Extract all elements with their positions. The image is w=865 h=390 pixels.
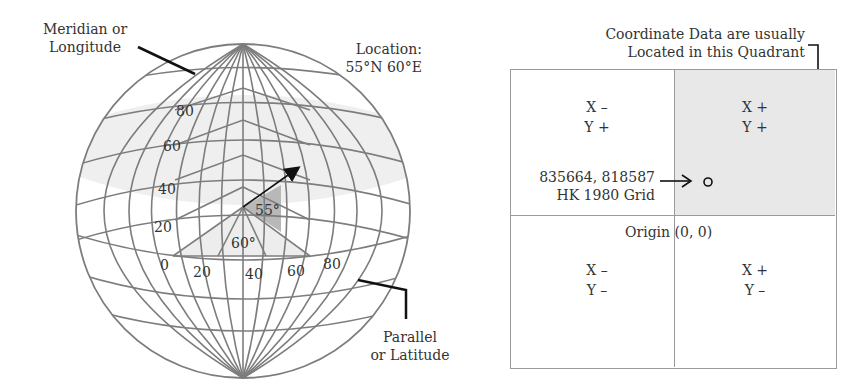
lon-tick-40: 40: [245, 265, 263, 283]
top-right-x-sign: X +: [725, 97, 785, 117]
lon-tick-20: 20: [193, 263, 211, 281]
bottom-right-x-sign: X +: [725, 260, 785, 280]
lat-tick-20: 20: [154, 218, 172, 236]
location-label-line1: Location:: [330, 40, 422, 58]
parallel-label-line2: or Latitude: [360, 346, 460, 364]
lat-tick-80: 80: [176, 102, 194, 120]
top-right-y-sign: Y +: [725, 117, 785, 137]
point-label: 835664, 818587 HK 1980 Grid: [525, 168, 655, 204]
latitude-angle-label: 55°: [255, 201, 280, 219]
meridian-leader-line: [138, 47, 195, 74]
top-left-signs: X – Y +: [567, 97, 627, 137]
bottom-left-y-sign: Y –: [567, 280, 627, 300]
lat-tick-40: 40: [158, 180, 176, 198]
point-coordinates: 835664, 818587: [525, 168, 655, 186]
bottom-left-signs: X – Y –: [567, 260, 627, 300]
meridian-label-line2: Longitude: [30, 38, 140, 56]
quadrant-caption-line1: Coordinate Data are usually: [560, 25, 805, 43]
meridian-label: Meridian or Longitude: [30, 20, 140, 56]
bottom-left-x-sign: X –: [567, 260, 627, 280]
quadrant-top-right: X + Y +: [675, 70, 835, 216]
top-left-y-sign: Y +: [567, 117, 627, 137]
origin-coordinates: (0, 0): [675, 224, 713, 240]
bottom-right-y-sign: Y –: [725, 280, 785, 300]
parallel-label-line1: Parallel: [360, 328, 460, 346]
location-label: Location: 55°N 60°E: [330, 40, 422, 76]
parallel-label: Parallel or Latitude: [360, 328, 460, 364]
top-right-signs: X + Y +: [725, 97, 785, 137]
location-label-line2: 55°N 60°E: [330, 58, 422, 76]
quadrant-caption: Coordinate Data are usually Located in t…: [560, 25, 805, 61]
quadrant-grid: X – Y + X + Y + X – Y – X + Y –: [510, 69, 837, 369]
meridian-label-line1: Meridian or: [30, 20, 140, 38]
quadrant-caption-line2: Located in this Quadrant: [560, 43, 805, 61]
top-left-x-sign: X –: [567, 97, 627, 117]
lon-tick-60: 60: [287, 262, 305, 280]
lat-tick-0: 0: [160, 256, 169, 274]
lon-tick-80: 80: [323, 255, 341, 273]
origin-label-text: Origin: [625, 224, 670, 240]
bottom-right-signs: X + Y –: [725, 260, 785, 300]
point-grid-name: HK 1980 Grid: [525, 186, 655, 204]
longitude-angle-label: 60°: [231, 234, 256, 252]
lat-tick-60: 60: [163, 137, 181, 155]
origin-label: Origin (0, 0): [625, 223, 712, 241]
